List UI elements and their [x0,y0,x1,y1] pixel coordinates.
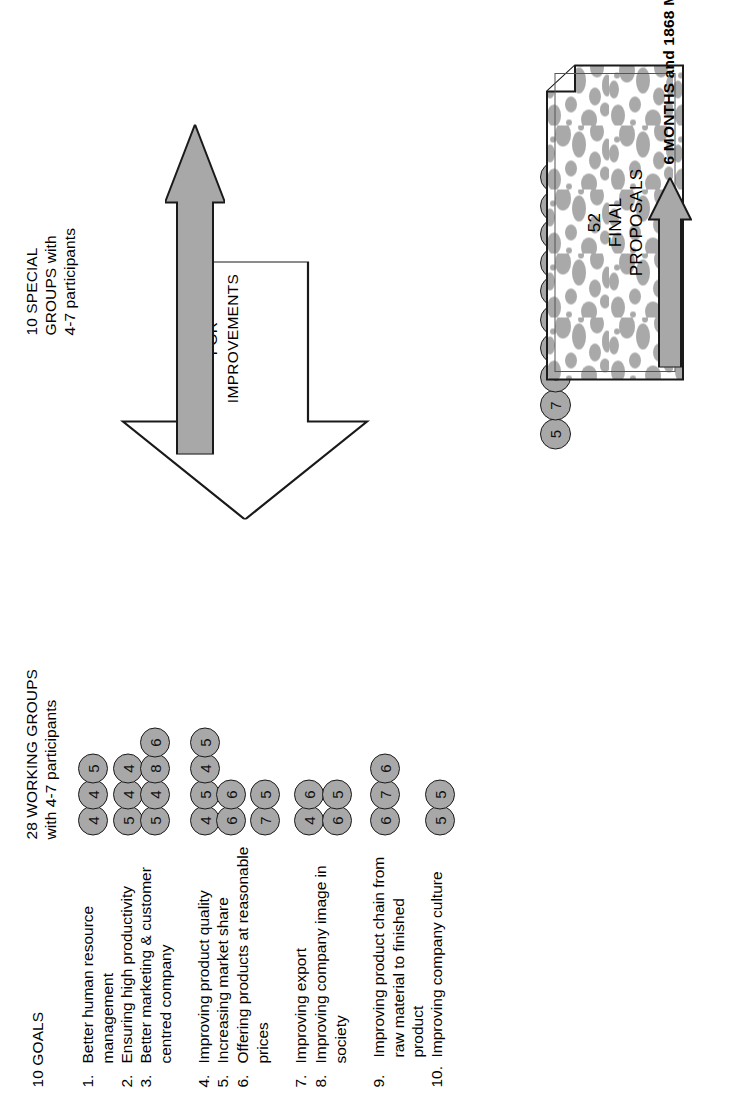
working-group-row: 6 5 [322,783,352,835]
goal-number: 5. [213,1074,233,1087]
working-group-circle[interactable]: 6 [294,779,324,809]
working-group-row: 5 5 [425,783,455,835]
working-group-circle[interactable]: 6 [322,805,352,835]
working-group-circle[interactable]: 5 [140,805,170,835]
working-group-circle[interactable]: 5 [322,779,352,809]
goal-number: 4. [194,1074,214,1087]
working-group-circle[interactable]: 5 [425,779,455,809]
working-group-circle[interactable]: 4 [113,753,143,783]
goal-number: 6. [233,1074,253,1087]
duration-label: 6 MONTHS and 1868 MAN x HRS [660,0,678,164]
working-group-circle[interactable]: 6 [216,805,246,835]
working-group-circle[interactable]: 5 [425,805,455,835]
special-groups-header: 10 SPECIAL GROUPS with 4-7 participants [22,227,79,335]
goal-number: 7. [291,1074,311,1087]
working-group-circle[interactable]: 4 [140,779,170,809]
goal-number: 10. [427,1065,447,1087]
working-group-row: 5 4 8 6 [140,731,170,835]
working-group-circle[interactable]: 4 [190,753,220,783]
goals-header: 10 GOALS [28,1011,47,1087]
working-group-row: 6 7 6 [370,757,400,835]
goal-label: Improving company image in society [311,865,350,1063]
goal-number: 3. [136,1074,156,1087]
goal-label: Better human resource management [78,905,117,1063]
working-group-circle[interactable]: 5 [190,727,220,757]
working-group-circle[interactable]: 4 [78,779,108,809]
working-group-circle[interactable]: 4 [113,779,143,809]
working-group-circle[interactable]: 5 [78,753,108,783]
final-proposals-count: 52 [584,212,605,232]
goal-label: Increasing market share [213,897,233,1063]
working-group-circle[interactable]: 6 [140,727,170,757]
goal-label: Improving company culture [427,871,447,1057]
working-group-circle[interactable]: 6 [370,753,400,783]
working-group-circle[interactable]: 6 [216,779,246,809]
proposals-arrow: 194 PROPOSALS FOR IMPROVEMENTS [120,261,370,519]
flow-arrow-shape [165,124,225,454]
working-group-circle[interactable]: 4 [294,805,324,835]
working-group-circle[interactable]: 8 [140,753,170,783]
goal-label: Ensuring high productivity [117,886,137,1064]
working-group-circle[interactable]: 6 [370,805,400,835]
goal-number: 8. [311,1074,331,1087]
working-group-row: 4 6 [294,783,324,835]
working-group-circle[interactable]: 5 [250,779,280,809]
working-group-row: 5 4 4 [113,757,143,835]
final-proposals-line-2: FINAL [605,197,626,247]
working-group-row: 4 4 5 [78,757,108,835]
working-group-circle[interactable]: 4 [78,805,108,835]
goal-number: 1. [78,1074,98,1087]
goal-label: Improving export [291,948,311,1063]
diagram-canvas: 10 GOALS 1. Better human resource manage… [0,0,736,1109]
goal-label: Improving product chain from raw materia… [369,856,428,1057]
special-group-circle[interactable]: 5 [540,418,571,449]
goal-number: 9. [369,1074,389,1087]
special-group-circle[interactable]: 7 [540,390,571,421]
final-proposals-line-3: PROPOSALS [626,168,647,276]
proposals-arrow-shape [120,261,370,519]
duration-arrow-shape [648,177,692,367]
duration-arrow [648,177,692,367]
goal-label: Offering products at reasonable prices [233,846,272,1063]
flow-arrow-to-final [165,124,225,454]
working-group-circle[interactable]: 7 [370,779,400,809]
proposals-line-3: IMPROVEMENTS [222,273,243,403]
goal-number: 2. [117,1074,137,1087]
working-group-circle[interactable]: 7 [250,805,280,835]
goal-label: Improving product quality [194,890,214,1063]
working-group-row: 7 5 [250,783,280,835]
working-groups-header: 28 WORKING GROUPS with 4-7 participants [22,668,60,839]
working-group-circle[interactable]: 5 [113,805,143,835]
working-group-row: 6 6 [216,783,246,835]
goal-label: Better marketing & customer centred comp… [136,867,175,1063]
